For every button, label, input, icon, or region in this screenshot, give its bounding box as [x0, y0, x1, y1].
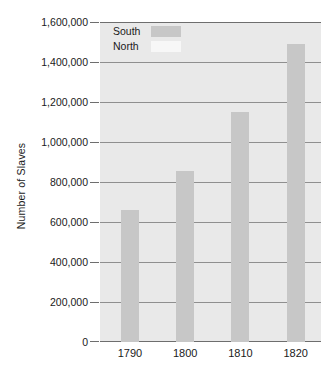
- legend-swatch-south: [151, 26, 181, 37]
- bar-south-1790: [121, 210, 139, 342]
- y-axis-tick-label: 0: [0, 337, 88, 347]
- x-axis-tick-label: 1820: [274, 346, 318, 360]
- legend-entry-south: South: [113, 24, 189, 39]
- y-axis-tick-label: 1,600,000: [0, 17, 88, 27]
- x-axis-tick-label: 1810: [218, 346, 262, 360]
- x-axis-tick-label: 1800: [163, 346, 207, 360]
- bar-south-1800: [176, 171, 194, 342]
- x-axis-tick-label: 1790: [108, 346, 152, 360]
- y-axis-tick-mark: [90, 102, 99, 103]
- y-axis-tick-label: 1,200,000: [0, 97, 88, 107]
- legend-entry-north: North: [113, 39, 189, 54]
- y-axis-title: Number of Slaves: [14, 126, 30, 246]
- plot-area: [100, 22, 321, 342]
- y-axis-tick-mark: [90, 341, 99, 342]
- y-axis-tick-label: 200,000: [0, 297, 88, 307]
- y-axis-tick-mark: [90, 182, 99, 183]
- legend-label-north: North: [113, 39, 139, 54]
- bar-south-1820: [287, 44, 305, 342]
- y-axis-tick-mark: [90, 62, 99, 63]
- y-axis-tick-mark: [90, 302, 99, 303]
- y-axis-tick-mark: [90, 142, 99, 143]
- bar-south-1810: [231, 112, 249, 342]
- chart-legend: South North: [113, 24, 189, 56]
- y-axis-tick-label: 400,000: [0, 257, 88, 267]
- chart-figure: Number of Slaves 0200,000400,000600,0008…: [0, 0, 331, 376]
- y-axis-tick-label: 1,400,000: [0, 57, 88, 67]
- legend-swatch-north: [151, 41, 181, 52]
- gridline: [100, 22, 321, 23]
- y-axis-tick-mark: [90, 222, 99, 223]
- y-axis-tick-mark: [90, 22, 99, 23]
- x-axis-tick-labels: 1790180018101820: [100, 346, 321, 364]
- y-axis-title-text: Number of Slaves: [14, 126, 28, 246]
- y-axis-tick-mark: [90, 262, 99, 263]
- legend-label-south: South: [113, 24, 140, 39]
